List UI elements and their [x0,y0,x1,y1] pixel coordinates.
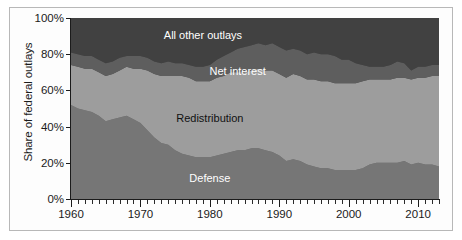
x-tick-label: 2000 [336,208,362,220]
x-tick-minor [161,200,162,204]
x-tick-minor [335,200,336,204]
x-tick-minor [314,200,315,204]
x-tick-minor [363,200,364,204]
x-tick-minor [307,200,308,204]
band-label-all-other-outlays: All other outlays [164,29,242,41]
x-tick-major [210,200,211,207]
y-tick-mark [66,90,71,91]
band-label-defense: Defense [189,172,230,184]
x-tick-minor [120,200,121,204]
x-tick-minor [189,200,190,204]
y-tick-mark [66,199,71,200]
figure-container: Share of federal outlays 0%20%40%60%80%1… [0,0,462,240]
area-chart-svg [71,18,439,199]
x-tick-minor [286,200,287,204]
stacked-area-plot [71,18,439,199]
x-tick-minor [113,200,114,204]
x-tick-minor [78,200,79,204]
x-tick-minor [231,200,232,204]
x-tick-minor [356,200,357,204]
x-tick-minor [432,200,433,204]
x-tick-minor [265,200,266,204]
x-tick-minor [328,200,329,204]
x-tick-minor [85,200,86,204]
x-tick-label: 1990 [267,208,293,220]
y-tick-mark [66,54,71,55]
x-tick-minor [397,200,398,204]
x-tick-minor [217,200,218,204]
band-label-redistribution: Redistribution [176,112,243,124]
x-tick-minor [390,200,391,204]
x-tick-minor [168,200,169,204]
x-tick-label: 2010 [405,208,431,220]
x-tick-minor [106,200,107,204]
x-tick-minor [293,200,294,204]
x-tick-minor [411,200,412,204]
y-tick-label: 60% [24,84,64,96]
x-tick-major [279,200,280,207]
x-tick-minor [147,200,148,204]
x-tick-minor [92,200,93,204]
x-tick-minor [99,200,100,204]
x-tick-minor [182,200,183,204]
x-tick-minor [383,200,384,204]
x-tick-minor [196,200,197,204]
x-tick-minor [370,200,371,204]
x-tick-minor [175,200,176,204]
x-tick-minor [425,200,426,204]
y-tick-label: 40% [24,121,64,133]
x-tick-minor [439,200,440,204]
x-tick-minor [342,200,343,204]
x-tick-minor [404,200,405,204]
x-tick-minor [154,200,155,204]
x-tick-minor [272,200,273,204]
y-tick-mark [66,18,71,19]
x-tick-label: 1960 [58,208,84,220]
y-tick-label: 80% [24,48,64,60]
x-tick-label: 1970 [128,208,154,220]
x-tick-label: 1980 [197,208,223,220]
x-tick-minor [224,200,225,204]
x-tick-minor [252,200,253,204]
x-tick-major [71,200,72,207]
y-tick-mark [66,163,71,164]
x-tick-major [140,200,141,207]
x-tick-minor [127,200,128,204]
x-tick-minor [133,200,134,204]
x-tick-minor [377,200,378,204]
band-label-net-interest: Net interest [210,65,266,77]
x-tick-minor [245,200,246,204]
x-tick-minor [300,200,301,204]
y-tick-mark [66,127,71,128]
y-tick-label: 100% [24,12,64,24]
x-tick-major [418,200,419,207]
x-tick-major [349,200,350,207]
x-tick-minor [321,200,322,204]
x-tick-minor [203,200,204,204]
y-tick-label: 20% [24,157,64,169]
x-tick-minor [258,200,259,204]
x-tick-minor [238,200,239,204]
